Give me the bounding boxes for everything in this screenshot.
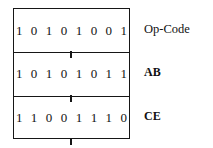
row-label-ab: AB xyxy=(144,51,213,94)
label-column: Op-Code AB CE xyxy=(144,8,213,139)
instruction-byte-diagram: 1 0 1 0 1 0 0 1 1 0 1 0 1 0 1 1 1 1 0 0 … xyxy=(0,0,213,148)
row-label-ce: CE xyxy=(144,95,213,138)
byte-table: 1 0 1 0 1 0 0 1 1 0 1 0 1 0 1 1 1 1 0 0 … xyxy=(13,8,130,139)
binary-value: 1 0 1 0 1 0 0 1 xyxy=(13,24,129,38)
table-row: 1 0 1 0 1 0 1 1 xyxy=(14,52,129,95)
binary-value: 1 0 1 0 1 0 1 1 xyxy=(13,67,129,81)
row-tick-mark xyxy=(70,138,72,145)
binary-value: 1 1 0 0 1 1 1 0 xyxy=(13,111,129,125)
table-row: 1 1 0 0 1 1 1 0 xyxy=(14,96,129,139)
table-row: 1 0 1 0 1 0 0 1 xyxy=(14,9,129,52)
row-label-op-code: Op-Code xyxy=(144,8,213,51)
